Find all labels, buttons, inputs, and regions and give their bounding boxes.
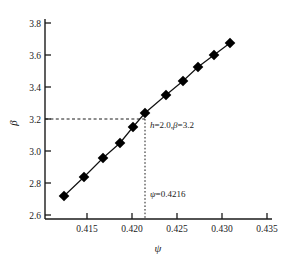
y-tick-label-2.6: 2.6 (29, 211, 41, 221)
annot-beta-value: =3.2 (178, 120, 194, 130)
x-axis-title: ψ (155, 242, 162, 254)
chart-figure: 3.8 3.6 3.4 3.2 3.0 2.8 2.6 0.415 0.420 … (0, 0, 294, 267)
y-axis-title: β (7, 120, 19, 127)
y-tick-label-3.0: 3.0 (29, 147, 41, 157)
x-axis-ticks (87, 213, 267, 219)
x-tick-label-0.415: 0.415 (76, 224, 98, 234)
x-tick-label-0.420: 0.420 (121, 224, 143, 234)
data-point-marker (225, 38, 236, 49)
x-tick-label-0.425: 0.425 (166, 224, 188, 234)
y-tick-label-3.8: 3.8 (29, 19, 41, 29)
data-point-marker (209, 50, 220, 61)
x-tick-label-0.430: 0.430 (211, 224, 233, 234)
intersection-label: h=2.0,β=3.2 (150, 120, 194, 130)
chart-plot-area: 3.8 3.6 3.4 3.2 3.0 2.8 2.6 0.415 0.420 … (0, 0, 294, 267)
y-tick-label-3.6: 3.6 (29, 51, 41, 61)
annot-psi-value: =0.4216 (156, 189, 186, 199)
annot-h-value: =2.0, (155, 120, 174, 130)
y-tick-label-3.2: 3.2 (29, 115, 41, 125)
psi-value-label: ψ=0.4216 (150, 189, 186, 199)
y-tick-label-3.4: 3.4 (29, 83, 41, 93)
x-tick-label-0.435: 0.435 (256, 224, 278, 234)
y-tick-label-2.8: 2.8 (29, 179, 41, 189)
